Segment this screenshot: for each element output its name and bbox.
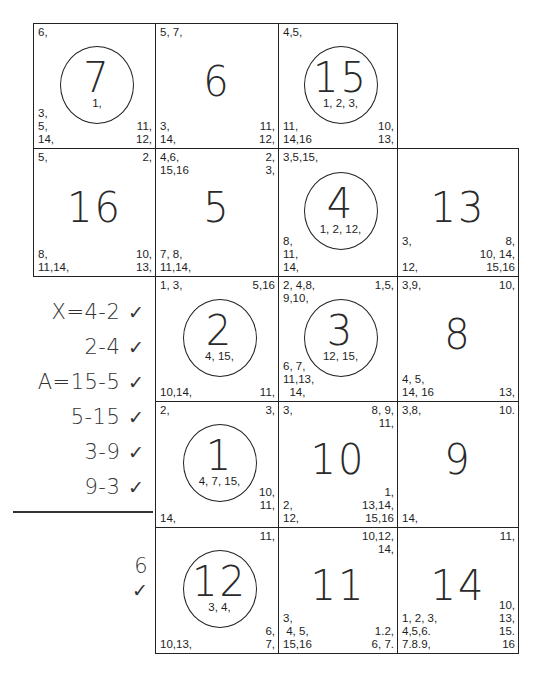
total-note: 6 ✓ [40, 530, 148, 602]
cell-7: 6,3, 5, 14,11, 12,71, [33, 23, 156, 149]
cell-label-br: 10, 13, 15. 16 [499, 599, 515, 651]
cell-9: 3,8,10.14,9 [397, 401, 519, 528]
cell-label-br: 10, 13, [136, 248, 152, 274]
cell-number: 2 [184, 309, 256, 351]
cell-label-tl: 3, [283, 404, 293, 417]
checkmark-icon: ✓ [128, 441, 145, 463]
checkmark-icon: ✓ [128, 406, 145, 428]
cell-inner-label: 1, 2, 12, [305, 223, 377, 236]
cell-label-tr: 2, 3, [265, 151, 275, 177]
cell-label-tl: 3,5,15, [283, 151, 318, 164]
note-line: 5-15 ✓ [8, 405, 144, 429]
cell-label-br: 11, [260, 386, 275, 399]
cell-label-tl: 5, 7, [160, 26, 182, 39]
cell-label-bl: 3, 12, [402, 235, 418, 274]
cell-label-tr: 10,12, 14, [362, 530, 394, 556]
sum-divider-line [13, 511, 153, 513]
cell-inner-label: 4, 15, [184, 350, 256, 363]
cell-11: 10,12, 14,3, 4, 5, 15,161.2, 6, 7.11 [278, 527, 398, 654]
cell-number: 16 [34, 186, 155, 228]
cell-label-tr: 10, [499, 279, 515, 292]
note-text: X=4-2 [52, 300, 121, 324]
circle-marker: 41, 2, 12, [304, 172, 378, 250]
cell-number: 6 [156, 60, 278, 102]
checkmark-icon: ✓ [128, 336, 145, 358]
note-line: 2-4 ✓ [8, 335, 144, 359]
cell-label-bl: 3, 14, [160, 120, 176, 146]
cell-4: 3,5,15,8, 11, 14,41, 2, 12, [278, 148, 398, 277]
note-text: A=15-5 [38, 370, 121, 394]
cell-label-tl: 1, 3, [160, 279, 182, 292]
cell-label-br: 8, 10, 14, 15,16 [480, 235, 515, 274]
cell-16: 5,2,8, 11,14,10, 13,16 [33, 148, 156, 277]
cell-label-br: 1.2, 6, 7. [372, 625, 394, 651]
cell-label-br: 6, 7, [265, 625, 275, 651]
cell-8: 3,9,10,4, 5, 14, 1613,8 [397, 276, 519, 402]
cell-1: 2,3,14,10, 11, 14, 7, 15, [155, 401, 279, 528]
cell-label-bl: 10,13, [160, 638, 192, 651]
cell-label-tr: 2, [142, 151, 152, 164]
cell-label-bl: 4, 5, 14, 16 [402, 373, 434, 399]
cell-label-tl: 3,9, [402, 279, 421, 292]
note-text: 3-9 [85, 440, 121, 464]
cell-label-bl: 2, 12, [283, 499, 299, 525]
cell-5: 4,6, 15,162, 3,7, 8, 11,14,5 [155, 148, 279, 277]
checkmark-icon: ✓ [128, 371, 145, 393]
note-line: A=15-5 ✓ [8, 370, 144, 394]
cell-inner-label: 3, 4, [184, 601, 256, 614]
cell-label-br: 11, 12, [259, 120, 275, 146]
cell-13: 3, 12,8, 10, 14, 15,1613 [397, 148, 519, 277]
cell-label-bl: 6, 7, 11,13, 14, [283, 360, 314, 399]
cell-label-tl: 5, [38, 151, 48, 164]
cell-label-bl: 10,14, [160, 386, 192, 399]
cell-number: 15 [305, 56, 377, 98]
checkmark-icon: ✓ [128, 301, 145, 323]
cell-label-tr: 11, [260, 530, 275, 543]
cell-number: 10 [279, 438, 397, 480]
circle-marker: 151, 2, 3, [304, 46, 378, 124]
cell-number: 12 [184, 560, 256, 602]
cell-number: 7 [61, 56, 133, 98]
cell-number: 4 [305, 182, 377, 224]
circle-marker: 123, 4, [183, 550, 257, 628]
cell-inner-label: 1, [61, 97, 133, 110]
cell-label-tr: 10. [499, 404, 515, 417]
circle-marker: 14, 7, 15, [183, 424, 257, 502]
cell-label-tl: 2, 4,8, 9,10, [283, 279, 315, 305]
cell-label-bl: 7, 8, 11,14, [160, 248, 191, 274]
cell-3: 2, 4,8, 9,10,1,5,6, 7, 11,13, 14,312, 15… [278, 276, 398, 402]
cell-12: 11,10,13,6, 7,123, 4, [155, 527, 279, 654]
cell-number: 13 [398, 186, 518, 228]
cell-number: 1 [184, 434, 256, 476]
cell-label-br: 11, 12, [136, 120, 152, 146]
cell-label-bl: 8, 11, 14, [283, 235, 299, 274]
note-text: 5-15 [71, 405, 121, 429]
cell-label-tr: 5,16 [253, 279, 275, 292]
note-line: X=4-2 ✓ [8, 300, 144, 324]
cell-label-tl: 4,6, 15,16 [160, 151, 189, 177]
cell-2: 1, 3,5,1610,14,11,24, 15, [155, 276, 279, 402]
cell-number: 8 [398, 313, 518, 355]
note-line: 9-3 ✓ [8, 475, 144, 499]
cell-number: 5 [156, 186, 278, 228]
cell-label-bl: 3, 4, 5, 15,16 [283, 612, 312, 651]
note-text: 9-3 [85, 475, 121, 499]
cell-label-tl: 2, [160, 404, 170, 417]
cell-label-tr: 3, [265, 404, 275, 417]
circle-marker: 312, 15, [304, 299, 378, 377]
cell-label-bl: 14, [402, 512, 418, 525]
cell-number: 14 [398, 564, 518, 606]
cell-number: 9 [398, 438, 518, 480]
total-value: 6 [134, 554, 148, 578]
cell-label-br: 10, 11, [259, 486, 275, 525]
cell-number: 3 [305, 309, 377, 351]
note-line: 3-9 ✓ [8, 440, 144, 464]
cell-6: 5, 7,3, 14,11, 12,6 [155, 23, 279, 149]
checkmark-icon: ✓ [128, 476, 145, 498]
cell-label-bl: 3, 5, 14, [38, 107, 54, 146]
checkmark-icon: ✓ [132, 579, 149, 601]
cell-15: 4,5,11, 14,1610, 13,151, 2, 3, [278, 23, 398, 149]
cell-label-bl: 1, 2, 3, 4,5,6. 7.8.9, [402, 612, 437, 651]
cell-inner-label: 12, 15, [305, 350, 377, 363]
cell-number: 11 [279, 564, 397, 606]
